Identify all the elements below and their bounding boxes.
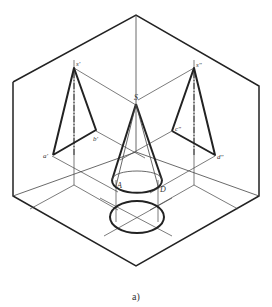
diagram-canvas: s' a' b' s" c" d" S A D a): [0, 0, 272, 307]
figure-caption: a): [132, 291, 140, 303]
cone: [112, 104, 162, 193]
base-projection-ellipse: [110, 201, 164, 233]
label-a-front: a': [43, 152, 49, 160]
side-projection-triangle: [172, 68, 215, 155]
label-s-front: s': [76, 60, 81, 68]
label-d-side: d": [217, 153, 224, 161]
label-c-side: c": [175, 125, 181, 133]
labels: s' a' b' s" c" d" S A D a): [43, 60, 224, 303]
front-projection-triangle: [53, 68, 96, 155]
label-s-side: s": [196, 61, 202, 69]
label-D: D: [159, 185, 166, 194]
construction-lines: [30, 60, 238, 236]
label-b-front: b': [93, 135, 99, 143]
label-A: A: [116, 181, 122, 190]
label-S: S: [134, 93, 138, 102]
projection-diagram: s' a' b' s" c" d" S A D a): [0, 0, 272, 307]
